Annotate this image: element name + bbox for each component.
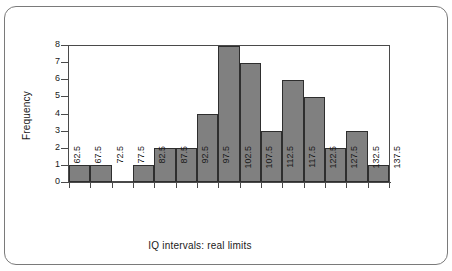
- y-axis-tick: [61, 131, 68, 132]
- x-axis-tick-label: 132.5: [372, 146, 381, 190]
- x-axis-tick-label: 97.5: [222, 146, 231, 190]
- x-axis-tick-label: 107.5: [265, 146, 274, 190]
- x-axis-tick: [282, 183, 283, 188]
- y-axis-tick-label: 0: [36, 177, 60, 186]
- y-axis-tick: [61, 182, 68, 183]
- y-axis-tick: [61, 165, 68, 166]
- x-axis-tick: [133, 183, 134, 188]
- y-axis-tick: [61, 45, 68, 46]
- x-axis-tick: [368, 183, 369, 188]
- y-axis-tick: [61, 62, 68, 63]
- x-axis-tick: [304, 183, 305, 188]
- x-axis-tick: [346, 183, 347, 188]
- x-axis-tick: [176, 183, 177, 188]
- histogram-chart: 012345678 Frequency 62.567.572.577.582.5…: [0, 0, 452, 271]
- x-axis-tick: [261, 183, 262, 188]
- x-axis-tick-label: 87.5: [180, 146, 189, 190]
- x-axis-tick: [389, 183, 390, 188]
- y-axis-tick-label: 4: [36, 109, 60, 118]
- y-axis-tick-label: 2: [36, 143, 60, 152]
- x-axis-tick-label: 72.5: [116, 146, 125, 190]
- y-axis-tick-label: 8: [36, 40, 60, 49]
- x-axis-tick: [325, 183, 326, 188]
- y-axis-tick-label: 6: [36, 74, 60, 83]
- y-axis-tick-label: 3: [36, 126, 60, 135]
- x-axis-tick: [218, 183, 219, 188]
- x-axis-tick-label: 77.5: [137, 146, 146, 190]
- x-axis-tick: [154, 183, 155, 188]
- x-axis-tick-label: 82.5: [158, 146, 167, 190]
- x-axis-title: IQ intervals: real limits: [70, 240, 330, 251]
- x-axis-tick-label: 92.5: [201, 146, 210, 190]
- x-axis-tick: [240, 183, 241, 188]
- x-axis-tick-label: 102.5: [244, 146, 253, 190]
- y-axis-tick: [61, 79, 68, 80]
- x-axis-tick-label: 62.5: [73, 146, 82, 190]
- x-axis-tick-label: 67.5: [94, 146, 103, 190]
- x-axis-tick-label: 117.5: [308, 146, 317, 190]
- x-axis-tick: [90, 183, 91, 188]
- y-axis-tick: [61, 96, 68, 97]
- x-axis-tick: [69, 183, 70, 188]
- x-axis-tick-label: 112.5: [286, 146, 295, 190]
- x-axis-tick: [197, 183, 198, 188]
- y-axis-tick-label: 7: [36, 57, 60, 66]
- x-axis-tick: [112, 183, 113, 188]
- y-axis-title: Frequency: [21, 76, 32, 156]
- x-axis-tick-label: 137.5: [393, 146, 402, 190]
- y-axis-tick: [61, 114, 68, 115]
- x-axis-tick-label: 122.5: [329, 146, 338, 190]
- y-axis-tick-label: 1: [36, 160, 60, 169]
- y-axis-tick-label: 5: [36, 91, 60, 100]
- y-axis-tick: [61, 148, 68, 149]
- x-axis-tick-label: 127.5: [350, 146, 359, 190]
